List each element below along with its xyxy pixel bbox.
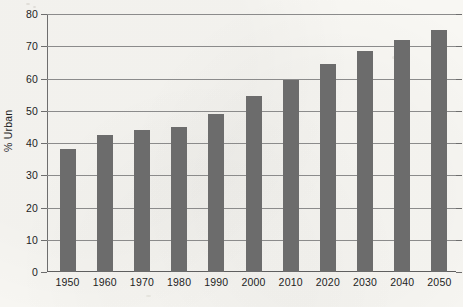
y-axis-tick — [41, 240, 47, 241]
x-axis-tick-label: 2050 — [427, 276, 451, 288]
chart-page: % Urban 01020304050607080 19501960197019… — [0, 0, 463, 307]
bar — [431, 30, 447, 272]
y-axis-tick-label: 80 — [26, 8, 38, 20]
x-axis-tick-label: 1990 — [204, 276, 228, 288]
y-axis-tick-right — [456, 175, 462, 176]
x-axis-tick-label: 1980 — [167, 276, 191, 288]
y-axis-tick-right — [456, 14, 462, 15]
x-axis-tick-label: 2040 — [390, 276, 414, 288]
y-axis-tick-label: 10 — [26, 234, 38, 246]
y-axis-tick-label: 20 — [26, 202, 38, 214]
bar — [394, 40, 410, 272]
y-axis-tick-label: 40 — [26, 137, 38, 149]
bar — [134, 130, 150, 272]
plot-area: 01020304050607080 1950196019701980199020… — [47, 14, 456, 272]
y-axis-tick-label: 0 — [32, 266, 38, 278]
scan-speck — [146, 295, 151, 297]
y-axis-tick-right — [456, 143, 462, 144]
bar — [171, 127, 187, 272]
y-axis-tick — [41, 208, 47, 209]
bar — [357, 51, 373, 272]
y-axis-tick-right — [456, 111, 462, 112]
y-axis-title: % Urban — [2, 110, 14, 152]
bar — [97, 135, 113, 272]
x-axis-tick-label: 2030 — [353, 276, 377, 288]
y-axis-tick-label: 50 — [26, 105, 38, 117]
y-axis-tick-label: 60 — [26, 73, 38, 85]
bar — [283, 80, 299, 272]
y-axis-tick — [41, 111, 47, 112]
y-axis-tick-right — [456, 208, 462, 209]
bar — [60, 149, 76, 272]
bar — [208, 114, 224, 272]
y-axis-tick — [41, 272, 47, 273]
gridline — [47, 14, 456, 15]
x-axis-tick-label: 2000 — [241, 276, 265, 288]
x-axis-tick-label: 1950 — [55, 276, 79, 288]
y-axis-tick — [41, 46, 47, 47]
y-axis-tick-right — [456, 240, 462, 241]
y-axis-tick — [41, 79, 47, 80]
scan-speck — [26, 3, 30, 5]
x-axis-tick-label: 1960 — [93, 276, 117, 288]
y-axis-tick-label: 70 — [26, 40, 38, 52]
y-axis-tick-label: 30 — [26, 169, 38, 181]
y-axis-tick — [41, 143, 47, 144]
x-axis-tick-label: 2020 — [316, 276, 340, 288]
y-axis-tick-right — [456, 79, 462, 80]
x-axis-tick-label: 2010 — [279, 276, 303, 288]
y-axis-tick — [41, 175, 47, 176]
x-axis-tick-label: 1970 — [130, 276, 154, 288]
y-axis-tick-right — [456, 272, 462, 273]
y-axis-tick — [41, 14, 47, 15]
bar — [320, 64, 336, 272]
bar — [246, 96, 262, 272]
y-axis-tick-right — [456, 46, 462, 47]
